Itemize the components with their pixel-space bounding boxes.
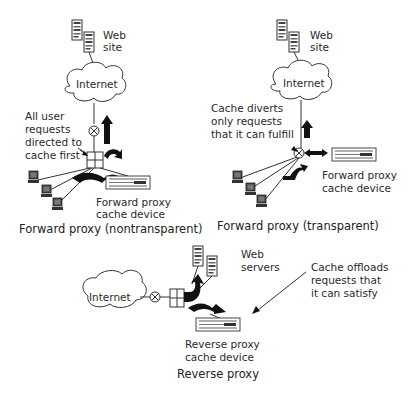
cloud-label: Internet [76,78,118,91]
note-line: it can satisfy [311,287,378,300]
device-label: cache device [322,182,391,195]
device-label: Forward proxy [322,169,397,182]
panel-caption: Forward proxy (transparent) [217,220,379,233]
router-icon [89,126,99,136]
note-line: that it can fulfill [211,128,294,141]
device-label: cache device [96,208,165,221]
computer-icon [41,185,52,197]
note-line: requests that [311,274,381,287]
web-site-label: Web [103,29,126,42]
note-line: Cache diverts [211,102,283,115]
cache-device-icon [196,318,240,331]
note-line: cache first [25,149,80,162]
cache-device-icon [332,148,376,161]
computer-icon [256,195,267,207]
web-site-label: site [103,41,122,54]
router-icon [150,292,160,302]
panel-reverse [83,246,306,331]
web-servers-label: servers [241,261,280,274]
cache-device-icon [106,176,150,189]
cloud-label: Internet [283,77,325,90]
server-icon [289,32,299,52]
cloud-label: Internet [89,291,131,304]
server-icon [277,20,287,40]
web-site-label: Web [310,29,333,42]
switch-icon [87,152,103,168]
panel-caption: Reverse proxy [177,368,259,381]
computer-icon [28,171,39,183]
computer-icon [232,171,243,183]
note-line: directed to [25,136,82,149]
device-label: cache device [185,351,254,364]
note-line: All user [25,110,64,123]
device-label: Forward proxy [96,196,171,209]
note-line: requests [25,123,70,136]
note-line: Cache offloads [311,261,389,274]
arrow-icon [101,115,113,144]
server-icon [72,20,82,40]
web-servers-label: Web [241,248,264,261]
computer-icon [245,183,256,195]
server-icon [84,32,94,52]
computer-icon [52,198,63,210]
note-line: only requests [211,115,282,128]
switch-icon [170,289,184,307]
server-icon [193,246,203,266]
device-label: Reverse proxy [185,338,260,351]
arrow-icon [301,120,313,138]
server-icon [207,256,217,276]
web-site-label: site [310,41,329,54]
panel-caption: Forward proxy (nontransparent) [19,223,202,236]
